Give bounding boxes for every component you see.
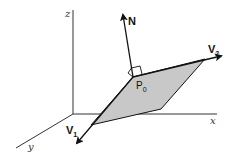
z-axis-label: z [64, 8, 71, 19]
right-angle-marker [132, 66, 143, 74]
point-p0-label-subscript: 0 [143, 86, 147, 93]
v1-label-subscript: 1 [73, 131, 77, 138]
normal-label: N [128, 15, 136, 27]
x-axis-label: x [210, 115, 216, 126]
v2-label-subscript: 2 [215, 50, 219, 57]
v1-label: V1 [66, 124, 77, 138]
y-axis [16, 114, 73, 148]
y-axis-label: y [27, 141, 34, 152]
v2-label: V2 [208, 43, 219, 57]
plane-parallelogram [91, 59, 205, 125]
plane-diagram: z x y N V2 V1 P0 [0, 0, 233, 160]
